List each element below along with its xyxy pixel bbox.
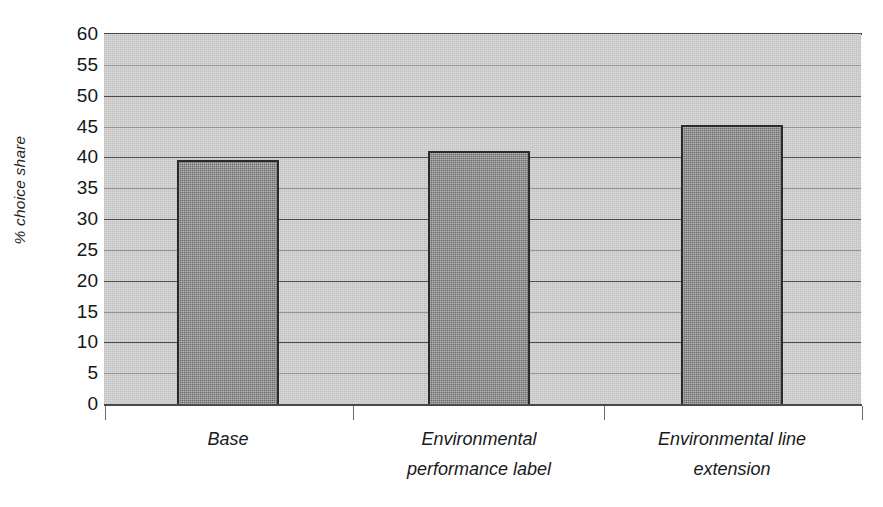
x-axis-end-tick — [105, 406, 106, 420]
y-axis-title-label: % choice share — [11, 136, 29, 245]
y-axis-tick-label: 30 — [42, 208, 98, 230]
x-axis-category-label: Environmental performance label — [353, 424, 605, 484]
x-axis-category-labels: BaseEnvironmental performance labelEnvir… — [104, 424, 861, 504]
y-axis-tick-label: 0 — [42, 393, 98, 415]
x-axis-category-label: Environmental line extension — [606, 424, 858, 484]
gridline — [104, 65, 861, 66]
x-axis-category-label: Base — [102, 424, 354, 454]
plot-area — [104, 34, 861, 404]
x-axis-end-tick — [862, 406, 863, 420]
bar — [681, 125, 783, 404]
y-axis-tick-label: 35 — [42, 177, 98, 199]
y-axis-tick-label: 40 — [42, 146, 98, 168]
x-axis-tick — [353, 406, 354, 420]
y-axis-tick-label: 5 — [42, 362, 98, 384]
bar-chart: % choice share 605550454035302520151050 … — [0, 0, 883, 507]
y-axis-tick-label: 20 — [42, 270, 98, 292]
y-axis-tick-label: 50 — [42, 85, 98, 107]
bar — [428, 151, 530, 404]
y-axis-tick-label: 45 — [42, 116, 98, 138]
y-axis-title: % choice share — [0, 0, 40, 380]
x-axis-tick — [604, 406, 605, 420]
gridline — [104, 96, 861, 97]
y-axis-tick-label: 15 — [42, 301, 98, 323]
y-axis-tick-label: 25 — [42, 239, 98, 261]
y-axis-tick-label: 60 — [42, 23, 98, 45]
y-axis-tick-labels: 605550454035302520151050 — [42, 23, 98, 415]
y-axis-tick-label: 55 — [42, 54, 98, 76]
bar — [177, 160, 279, 404]
x-axis-line — [104, 404, 862, 406]
y-axis-tick-label: 10 — [42, 331, 98, 353]
